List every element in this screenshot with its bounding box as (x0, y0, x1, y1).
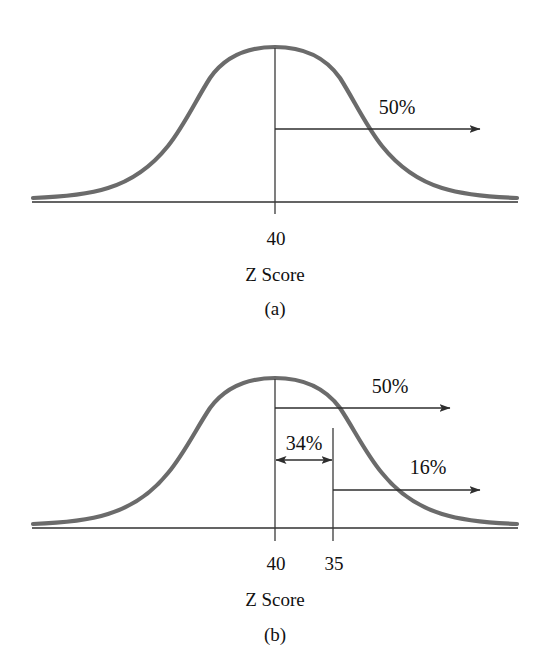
label-16-b: 16% (410, 456, 447, 478)
normal-curve-figure: 50% 40 Z Score (a) 50% 34% (0, 0, 543, 666)
tick-label-40-b: 40 (267, 553, 286, 574)
panel-a: 50% 40 Z Score (a) (32, 47, 518, 320)
label-34-b: 34% (286, 432, 323, 454)
panel-tag-a: (a) (264, 298, 285, 320)
axis-title-a: Z Score (245, 264, 305, 285)
tick-label-35-b: 35 (325, 553, 344, 574)
axis-title-b: Z Score (245, 589, 305, 610)
panel-tag-b: (b) (264, 624, 286, 646)
tick-label-40-a: 40 (267, 228, 286, 249)
label-50-b: 50% (372, 375, 409, 397)
figure-root: 50% 40 Z Score (a) 50% 34% (0, 0, 543, 666)
label-50-a: 50% (379, 96, 416, 118)
panel-b: 50% 34% 16% 40 35 Z Score (b) (32, 375, 518, 646)
